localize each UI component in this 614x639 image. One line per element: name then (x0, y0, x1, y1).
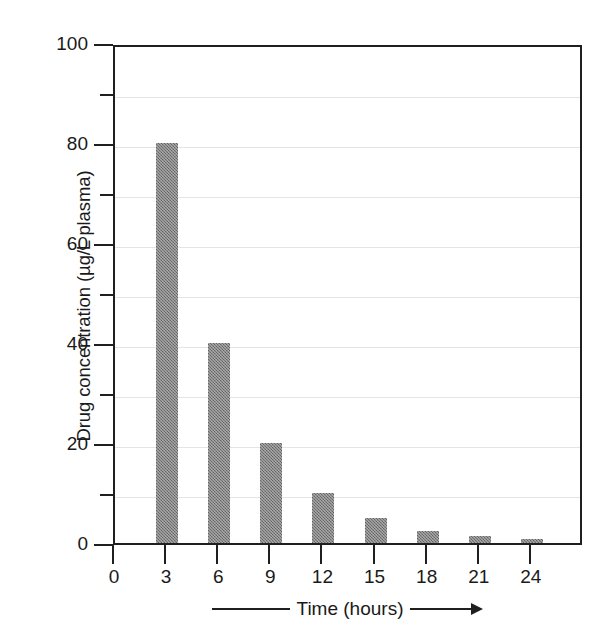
x-axis-tick (320, 545, 322, 564)
y-axis-tick-minor (100, 394, 113, 396)
y-axis-tick-label: 100 (0, 33, 88, 55)
gridline (115, 497, 580, 498)
gridline (115, 347, 580, 348)
x-axis-tick (425, 545, 427, 564)
x-axis-tick (164, 545, 166, 564)
bar (365, 518, 387, 543)
gridline (115, 97, 580, 98)
y-axis-tick-major (94, 44, 113, 46)
x-axis-tick (529, 545, 531, 564)
y-axis-tick-label: 20 (0, 433, 88, 455)
x-axis-tick-label: 6 (188, 566, 248, 588)
x-axis-title-text: Time (hours) (297, 598, 404, 620)
y-axis-tick-minor (100, 294, 113, 296)
bar (521, 539, 543, 543)
bar (417, 531, 439, 544)
bar (312, 493, 334, 543)
x-axis-tick (216, 545, 218, 564)
x-axis-tick-label: 15 (345, 566, 405, 588)
gridline (115, 447, 580, 448)
x-axis-tick (373, 545, 375, 564)
x-axis-tick (112, 545, 114, 564)
y-axis-tick-minor (100, 94, 113, 96)
y-axis-tick-major (94, 144, 113, 146)
y-axis-tick-major (94, 444, 113, 446)
gridline (115, 147, 580, 148)
gridline (115, 297, 580, 298)
y-axis-tick-major (94, 244, 113, 246)
bar (469, 536, 491, 544)
bar (156, 143, 178, 543)
x-axis-title: Time (hours) (113, 598, 582, 620)
axis-title-left-rule (212, 608, 290, 610)
x-axis-tick-label: 21 (449, 566, 509, 588)
y-axis-tick-label: 80 (0, 133, 88, 155)
right-arrow-icon (410, 603, 483, 615)
y-axis-tick-minor (100, 194, 113, 196)
y-axis-tick-label: 0 (0, 533, 88, 555)
y-axis-tick-major (94, 544, 113, 546)
x-axis-tick (477, 545, 479, 564)
y-axis-tick-minor (100, 494, 113, 496)
gridline (115, 247, 580, 248)
plot-area (113, 45, 582, 545)
x-axis-tick (268, 545, 270, 564)
x-axis-tick-label: 3 (136, 566, 196, 588)
x-axis-tick-label: 0 (84, 566, 144, 588)
drug-concentration-bar-chart: Drug concentration (µg/L plasma) 0204060… (0, 0, 614, 639)
x-axis-tick-label: 24 (501, 566, 561, 588)
x-axis-tick-label: 18 (397, 566, 457, 588)
y-axis-tick-label: 40 (0, 333, 88, 355)
gridline (115, 397, 580, 398)
y-axis-tick-major (94, 344, 113, 346)
x-axis-tick-label: 12 (292, 566, 352, 588)
gridline (115, 197, 580, 198)
bar (208, 343, 230, 543)
y-axis-tick-label: 60 (0, 233, 88, 255)
x-axis-tick-label: 9 (240, 566, 300, 588)
bar (260, 443, 282, 543)
